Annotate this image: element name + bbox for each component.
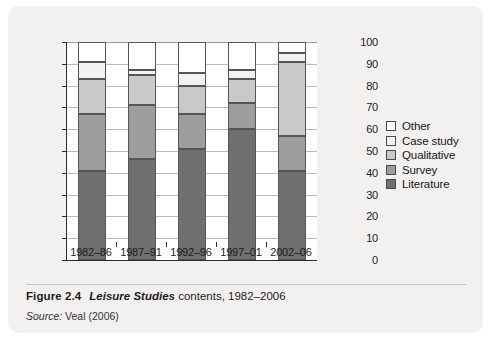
- bar-column[interactable]: [228, 42, 256, 260]
- x-tick-mark: [116, 242, 117, 247]
- bar-segment[interactable]: [278, 53, 306, 62]
- y-tick-mark-70: [62, 107, 67, 108]
- legend-label: Qualitative: [402, 149, 455, 161]
- bar-segment[interactable]: [278, 42, 306, 53]
- y-tick-label-40: 40: [344, 167, 378, 179]
- y-tick-label-30: 30: [344, 189, 378, 201]
- bar-column[interactable]: [178, 42, 206, 260]
- bar-column[interactable]: [128, 42, 156, 260]
- stacked-bars: [67, 42, 317, 260]
- bar-segment[interactable]: [228, 103, 256, 129]
- y-tick-mark-90: [62, 64, 67, 65]
- bar-segment[interactable]: [228, 79, 256, 103]
- y-tick-mark-40: [62, 173, 67, 174]
- bar-segment[interactable]: [178, 114, 206, 149]
- bar-segment[interactable]: [178, 86, 206, 114]
- bar-segment[interactable]: [128, 105, 156, 158]
- y-tick-label-10: 10: [344, 232, 378, 244]
- bar-segment[interactable]: [78, 62, 106, 79]
- x-tick-mark: [216, 242, 217, 247]
- y-tick-mark-80: [62, 86, 67, 87]
- y-tick-mark-20: [62, 216, 67, 217]
- legend-item[interactable]: Literature: [386, 177, 478, 192]
- legend-label: Literature: [402, 178, 450, 190]
- bar-segment[interactable]: [78, 79, 106, 114]
- bar-segment[interactable]: [178, 42, 206, 73]
- legend-label: Survey: [402, 164, 437, 176]
- y-tick-label-80: 80: [344, 80, 378, 92]
- legend-item[interactable]: Qualitative: [386, 148, 478, 163]
- y-tick-label-90: 90: [344, 58, 378, 70]
- y-tick-label-70: 70: [344, 101, 378, 113]
- bar-segment[interactable]: [228, 129, 256, 260]
- bar-column[interactable]: [278, 42, 306, 260]
- bar-segment[interactable]: [128, 42, 156, 70]
- bar-segment[interactable]: [278, 136, 306, 171]
- legend-swatch-icon: [386, 179, 396, 189]
- bar-segment[interactable]: [128, 75, 156, 106]
- legend-swatch-icon: [386, 150, 396, 160]
- bar-segment[interactable]: [78, 42, 106, 62]
- source-label: Source:: [26, 310, 62, 322]
- y-tick-label-60: 60: [344, 123, 378, 135]
- legend-item[interactable]: Survey: [386, 163, 478, 178]
- x-tick-label: 2002–06: [260, 246, 322, 258]
- bar-segment[interactable]: [78, 114, 106, 171]
- legend-item[interactable]: Other: [386, 119, 478, 134]
- y-tick-label-0: 0: [344, 254, 378, 266]
- bar-segment[interactable]: [278, 62, 306, 136]
- y-tick-mark-100: [62, 42, 67, 43]
- y-tick-mark-30: [62, 195, 67, 196]
- y-tick-mark-0: [62, 260, 67, 261]
- figure-title-italic: Leisure Studies: [89, 290, 175, 302]
- bar-segment[interactable]: [128, 159, 156, 260]
- legend-label: Other: [402, 120, 430, 132]
- y-tick-label-20: 20: [344, 210, 378, 222]
- legend-swatch-icon: [386, 136, 396, 146]
- bar-segment[interactable]: [128, 70, 156, 74]
- y-tick-label-50: 50: [344, 145, 378, 157]
- bar-segment[interactable]: [178, 149, 206, 260]
- bar-segment[interactable]: [228, 70, 256, 79]
- legend-item[interactable]: Case study: [386, 134, 478, 149]
- caption-divider: [26, 284, 466, 285]
- legend-swatch-icon: [386, 121, 396, 131]
- figure-caption: Figure 2.4Leisure Studies contents, 1982…: [26, 290, 286, 302]
- legend-label: Case study: [402, 135, 459, 147]
- y-tick-label-100: 100: [344, 36, 378, 48]
- legend-swatch-icon: [386, 165, 396, 175]
- y-tick-mark-50: [62, 151, 67, 152]
- y-tick-mark-60: [62, 129, 67, 130]
- chart-region: 0102030405060708090100 1982–861987–91199…: [28, 24, 378, 279]
- bar-segment[interactable]: [178, 73, 206, 86]
- figure-number: Figure 2.4: [26, 290, 81, 302]
- bar-segment[interactable]: [228, 42, 256, 70]
- x-tick-mark: [166, 242, 167, 247]
- figure-source: Source: Veal (2006): [26, 310, 119, 322]
- figure-card: 0102030405060708090100 1982–861987–91199…: [8, 6, 483, 333]
- x-tick-mark: [266, 242, 267, 247]
- bar-column[interactable]: [78, 42, 106, 260]
- chart-legend: OtherCase studyQualitativeSurveyLiteratu…: [386, 119, 478, 192]
- plot-area: [66, 42, 317, 261]
- y-tick-mark-10: [62, 238, 67, 239]
- figure-title-rest: contents, 1982–2006: [175, 290, 286, 302]
- source-text: Veal (2006): [62, 310, 119, 322]
